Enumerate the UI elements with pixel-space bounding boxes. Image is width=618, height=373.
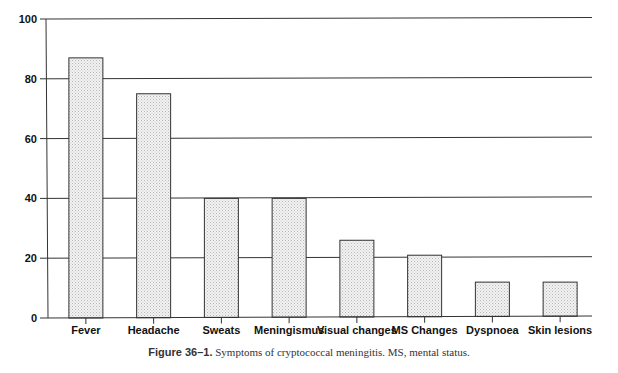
axes	[46, 19, 592, 324]
bar-ms-changes	[408, 255, 442, 317]
x-tick-label: MS Changes	[392, 324, 458, 336]
figure-label: Figure 36–1.	[148, 346, 212, 358]
figure-caption: Figure 36–1. Symptoms of cryptococcal me…	[0, 346, 618, 358]
gridline	[46, 18, 592, 20]
bar-chart: 020406080100 FeverHeadacheSweatsMeningis…	[0, 0, 618, 345]
gridline	[46, 197, 592, 199]
x-tick-label: Meningismus	[254, 324, 324, 336]
x-tick-label: Headache	[128, 324, 180, 336]
bars	[69, 58, 577, 318]
bar-fever	[69, 58, 103, 318]
y-tick-label: 20	[25, 252, 37, 264]
bar-dyspnoea	[475, 282, 509, 316]
gridline	[46, 77, 592, 79]
bar-meningismus	[272, 198, 306, 317]
x-axis-labels: FeverHeadacheSweatsMeningismusVisual cha…	[71, 324, 592, 336]
bar-sweats	[204, 198, 238, 317]
x-tick-label: Fever	[71, 324, 101, 336]
bar-skin-lesions	[543, 282, 577, 316]
x-tick-label: Dyspnoea	[466, 324, 519, 336]
y-tick-label: 80	[25, 73, 37, 85]
y-tick-label: 60	[25, 133, 37, 145]
y-tick-label: 0	[31, 312, 37, 324]
y-tick-label: 100	[19, 13, 37, 25]
bar-visual-changes	[340, 240, 374, 317]
y-axis-ticks: 020406080100	[19, 13, 46, 324]
y-axis-line	[46, 19, 48, 318]
gridline	[46, 137, 592, 139]
caption-text: Symptoms of cryptococcal meningitis. MS,…	[212, 346, 469, 358]
gridline	[46, 257, 592, 259]
x-tick-label: Skin lesions	[528, 324, 592, 336]
y-tick-label: 40	[25, 192, 37, 204]
x-tick-label: Sweats	[202, 324, 240, 336]
x-axis-line	[46, 316, 592, 318]
gridlines	[46, 18, 592, 259]
bar-headache	[137, 94, 171, 318]
x-tick-label: Visual changes	[317, 324, 397, 336]
